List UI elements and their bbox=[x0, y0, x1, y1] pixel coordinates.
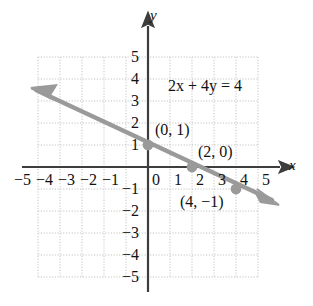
axes bbox=[22, 26, 280, 292]
x-tick--5: −5 bbox=[14, 172, 31, 188]
y-tick-3: 3 bbox=[131, 93, 139, 109]
x-tick-0: 0 bbox=[152, 172, 160, 188]
y-tick-1: 1 bbox=[131, 137, 139, 153]
x-tick--2: −2 bbox=[80, 172, 97, 188]
y-axis-label: y bbox=[150, 8, 157, 23]
graph-canvas bbox=[0, 0, 313, 306]
equation-annotation: 2x + 4y = 4 bbox=[168, 78, 242, 94]
x-tick-2: 2 bbox=[196, 172, 204, 188]
y-tick--1: −1 bbox=[122, 181, 139, 197]
y-tick-5: 5 bbox=[131, 49, 139, 65]
x-tick--3: −3 bbox=[58, 172, 75, 188]
y-tick--3: −3 bbox=[122, 225, 139, 241]
point-label-2-0: (2, 0) bbox=[198, 144, 233, 160]
x-axis-label: x bbox=[289, 158, 296, 173]
point-label-0-1: (0, 1) bbox=[155, 122, 190, 138]
x-tick-3: 3 bbox=[218, 172, 226, 188]
y-tick--2: −2 bbox=[122, 203, 139, 219]
y-tick-4: 4 bbox=[131, 71, 139, 87]
coordinate-graph-figure: y x 2x + 4y = 4 (0, 1) (2, 0) (4, −1) −5… bbox=[0, 0, 313, 306]
point-label-4-neg1: (4, −1) bbox=[180, 194, 224, 210]
x-tick-5: 5 bbox=[262, 172, 270, 188]
y-tick-2: 2 bbox=[131, 115, 139, 131]
y-tick--4: −4 bbox=[122, 247, 139, 263]
x-tick--1: −1 bbox=[102, 172, 119, 188]
y-tick--5: −5 bbox=[122, 269, 139, 285]
x-tick--4: −4 bbox=[36, 172, 53, 188]
x-tick-4: 4 bbox=[240, 172, 248, 188]
x-tick-1: 1 bbox=[174, 172, 182, 188]
point-0-1 bbox=[143, 140, 154, 151]
